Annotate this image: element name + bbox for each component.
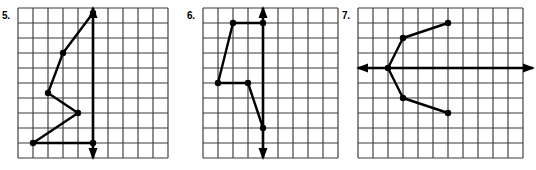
grid-lines (358, 8, 523, 158)
worksheet-canvas: 5.6.7. (0, 0, 536, 170)
vertex-point (445, 20, 451, 26)
vertex-point (445, 110, 451, 116)
vertex-point (400, 35, 406, 41)
vertex-point (400, 95, 406, 101)
graph-panel-3 (0, 0, 536, 170)
vertex-point (385, 65, 391, 71)
